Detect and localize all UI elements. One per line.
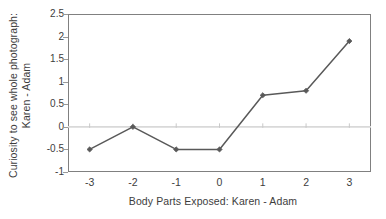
x-axis-tick-label: 1 (243, 177, 283, 188)
x-axis-tick-label: 3 (329, 177, 369, 188)
y-axis-tick-label: 2.5 (24, 9, 64, 19)
line-chart: Karen - Adam Curiosity to see whole phot… (0, 0, 386, 219)
y-axis-tick-label: 1 (24, 77, 64, 87)
y-axis-tick-mark (63, 172, 68, 173)
series-line (90, 41, 350, 149)
y-axis-tick-label: 2 (24, 32, 64, 42)
y-axis-title-line-1: Curiosity to see whole photograph: (8, 12, 20, 177)
data-point-marker (130, 124, 135, 129)
y-axis-tick-label: -1 (24, 167, 64, 177)
y-axis-tick-label: 0.5 (24, 99, 64, 109)
y-axis-title-line-2: Karen - Adam (21, 62, 33, 127)
data-point-marker (87, 147, 92, 152)
x-axis-tick-label: -2 (113, 177, 153, 188)
plot-area (68, 14, 371, 172)
x-axis-tick-label: -3 (70, 177, 110, 188)
y-axis-tick-label: 0 (24, 122, 64, 132)
y-axis-tick-label: -0.5 (24, 144, 64, 154)
x-axis-tick-label: 0 (200, 177, 240, 188)
y-axis-tick-label: 1.5 (24, 54, 64, 64)
y-axis-title: Karen - Adam Curiosity to see whole phot… (0, 0, 40, 190)
x-axis-tick-label: 2 (286, 177, 326, 188)
data-point-marker (174, 147, 179, 152)
x-axis-tick-label: -1 (156, 177, 196, 188)
x-axis-title: Body Parts Exposed: Karen - Adam (40, 195, 386, 207)
